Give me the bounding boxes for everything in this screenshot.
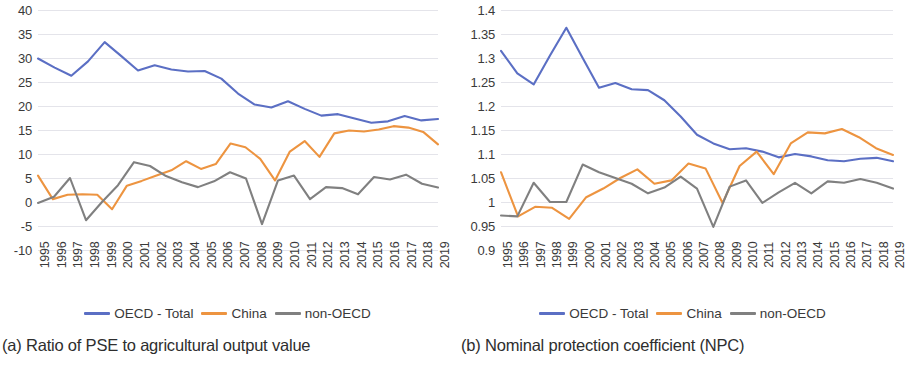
y-axis-tick-label: 1.05 bbox=[470, 171, 495, 186]
series-line bbox=[501, 28, 893, 161]
plot-b: 1.41.351.31.251.21.151.11.0510.950.9 bbox=[501, 10, 893, 250]
x-axis-tick-label: 1996 bbox=[55, 242, 69, 269]
y-axis-tick-label: 35 bbox=[18, 27, 32, 42]
figure-two-panel-chart: 4035302520151050-5-10 199519961997199819… bbox=[0, 0, 910, 366]
legend-b: OECD - TotalChinanon-OECD bbox=[455, 306, 910, 321]
y-axis-tick-label: 5 bbox=[25, 171, 32, 186]
legend-label: OECD - Total bbox=[114, 306, 193, 321]
x-axis-labels-a: 1995199619971998199920002001200220032004… bbox=[38, 255, 438, 303]
x-axis-tick-label: 1996 bbox=[517, 242, 531, 269]
legend-label: China bbox=[686, 306, 721, 321]
legend-swatch bbox=[656, 312, 682, 315]
series-line bbox=[38, 162, 438, 224]
x-axis-tick-label: 2003 bbox=[171, 242, 185, 269]
x-axis-tick-label: 1998 bbox=[88, 242, 102, 269]
series-lines-b bbox=[501, 10, 893, 250]
y-axis-tick-label: -5 bbox=[21, 219, 32, 234]
x-axis-tick-label: 2010 bbox=[746, 242, 760, 269]
y-axis-tick-label: 40 bbox=[18, 3, 32, 18]
caption-a: (a) Ratio of PSE to agricultural output … bbox=[2, 336, 310, 355]
x-axis-tick-label: 2005 bbox=[205, 242, 219, 269]
series-lines-a bbox=[38, 10, 438, 250]
x-axis-tick-label: 2002 bbox=[155, 242, 169, 269]
x-axis-tick-label: 2007 bbox=[238, 242, 252, 269]
x-axis-tick-label: 1995 bbox=[38, 242, 52, 269]
legend-label: non-OECD bbox=[305, 306, 371, 321]
series-line bbox=[38, 126, 438, 209]
x-axis-tick-label: 2015 bbox=[828, 242, 842, 269]
x-axis-tick-label: 2001 bbox=[138, 242, 152, 269]
legend-item: non-OECD bbox=[730, 306, 826, 321]
x-axis-tick-label: 2009 bbox=[271, 242, 285, 269]
y-axis-tick-label: 1.15 bbox=[470, 123, 495, 138]
x-axis-tick-label: 2019 bbox=[893, 242, 907, 269]
legend-swatch bbox=[201, 312, 227, 315]
y-axis-tick-label: 1.35 bbox=[470, 27, 495, 42]
x-axis-tick-label: 2008 bbox=[255, 242, 269, 269]
x-axis-tick-label: 2001 bbox=[599, 242, 613, 269]
legend-label: China bbox=[231, 306, 266, 321]
x-axis-tick-label: 1997 bbox=[534, 242, 548, 269]
legend-label: OECD - Total bbox=[569, 306, 648, 321]
chart-area-a: 4035302520151050-5-10 199519961997199819… bbox=[0, 0, 455, 300]
x-axis-tick-label: 2016 bbox=[844, 242, 858, 269]
legend-label: non-OECD bbox=[760, 306, 826, 321]
x-axis-tick-label: 2013 bbox=[338, 242, 352, 269]
legend-item: China bbox=[656, 306, 721, 321]
x-axis-tick-label: 2012 bbox=[779, 242, 793, 269]
legend-swatch bbox=[539, 312, 565, 315]
x-axis-tick-label: 2018 bbox=[877, 242, 891, 269]
x-axis-tick-label: 2003 bbox=[632, 242, 646, 269]
x-axis-tick-label: 2000 bbox=[583, 242, 597, 269]
series-line bbox=[501, 129, 893, 219]
x-axis-tick-label: 2017 bbox=[405, 242, 419, 269]
y-axis-tick-label: 0 bbox=[25, 195, 32, 210]
x-axis-tick-label: 2008 bbox=[713, 242, 727, 269]
x-axis-tick-label: 2012 bbox=[321, 242, 335, 269]
panel-b: 1.41.351.31.251.21.151.11.0510.950.9 199… bbox=[455, 0, 910, 366]
caption-b: (b) Nominal protection coefficient (NPC) bbox=[461, 336, 744, 355]
x-axis-tick-label: 1995 bbox=[501, 242, 515, 269]
x-axis-tick-label: 2016 bbox=[388, 242, 402, 269]
y-axis-tick-label: 1 bbox=[488, 195, 495, 210]
y-axis-tick-label: 1.2 bbox=[478, 99, 495, 114]
x-axis-tick-label: 2004 bbox=[188, 242, 202, 269]
x-axis-tick-label: 2014 bbox=[355, 242, 369, 269]
legend-swatch bbox=[730, 312, 756, 315]
legend-a: OECD - TotalChinanon-OECD bbox=[0, 306, 455, 321]
y-axis-tick-label: 1.25 bbox=[470, 75, 495, 90]
legend-item: OECD - Total bbox=[539, 306, 648, 321]
x-axis-tick-label: 1999 bbox=[566, 242, 580, 269]
y-axis-tick-label: 25 bbox=[18, 75, 32, 90]
x-axis-tick-label: 2011 bbox=[305, 242, 319, 268]
series-line bbox=[38, 42, 438, 123]
x-axis-tick-label: 2017 bbox=[860, 242, 874, 269]
chart-area-b: 1.41.351.31.251.21.151.11.0510.950.9 199… bbox=[455, 0, 910, 300]
x-axis-tick-label: 2013 bbox=[795, 242, 809, 269]
x-axis-tick-label: 2004 bbox=[648, 242, 662, 269]
legend-swatch bbox=[84, 312, 110, 315]
plot-a: 4035302520151050-5-10 bbox=[38, 10, 438, 250]
y-axis-tick-label: 30 bbox=[18, 51, 32, 66]
y-axis-tick-label: 15 bbox=[18, 123, 32, 138]
x-axis-tick-label: 2010 bbox=[288, 242, 302, 269]
legend-item: non-OECD bbox=[275, 306, 371, 321]
x-axis-tick-label: 2019 bbox=[438, 242, 452, 269]
x-axis-tick-label: 2006 bbox=[221, 242, 235, 269]
legend-swatch bbox=[275, 312, 301, 315]
x-axis-tick-label: 1998 bbox=[550, 242, 564, 269]
x-axis-tick-label: 2009 bbox=[730, 242, 744, 269]
y-axis-tick-label: 0.9 bbox=[478, 243, 495, 258]
panel-a: 4035302520151050-5-10 199519961997199819… bbox=[0, 0, 455, 366]
x-axis-tick-label: 2014 bbox=[811, 242, 825, 269]
x-axis-tick-label: 2015 bbox=[371, 242, 385, 269]
x-axis-tick-label: 2002 bbox=[615, 242, 629, 269]
y-axis-tick-label: 1.4 bbox=[478, 3, 495, 18]
legend-item: China bbox=[201, 306, 266, 321]
legend-item: OECD - Total bbox=[84, 306, 193, 321]
x-axis-tick-label: 2011 bbox=[762, 242, 776, 268]
y-axis-tick-label: 1.1 bbox=[478, 147, 495, 162]
x-axis-tick-label: 1997 bbox=[71, 242, 85, 269]
y-axis-tick-label: 0.95 bbox=[470, 219, 495, 234]
x-axis-tick-label: 2007 bbox=[697, 242, 711, 269]
